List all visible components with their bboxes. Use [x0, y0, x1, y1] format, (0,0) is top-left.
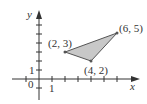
vertex-point [64, 51, 67, 54]
y-axis-label: y [26, 8, 32, 20]
vertex-label: (6, 5) [119, 22, 143, 35]
vertex-point [90, 60, 93, 63]
origin-label: 0 [28, 78, 34, 90]
y-axis-arrow-icon [36, 10, 42, 19]
coordinate-plane: (2, 3) (4, 2) (6, 5) y x 0 1 1 [0, 0, 147, 104]
triangle [65, 33, 117, 61]
x-tick-label: 1 [49, 82, 55, 94]
vertex-label: (2, 3) [48, 37, 72, 50]
vertex-label: (4, 2) [84, 64, 108, 77]
y-tick-label: 1 [29, 64, 35, 76]
x-axis-label: x [129, 80, 135, 92]
